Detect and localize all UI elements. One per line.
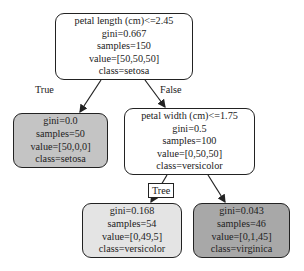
root-split-condition: petal length (cm)<=2.45 — [75, 15, 174, 28]
right-split-samples: samples=100 — [163, 135, 217, 148]
edge-root-to-left — [80, 80, 101, 112]
edge-label-true: True — [35, 84, 54, 95]
right-split-class: class=versicolor — [156, 160, 222, 173]
virginica-leaf-value: value=[0,1,45] — [211, 231, 271, 244]
versicolor-leaf-samples: samples=54 — [108, 218, 157, 231]
virginica-leaf-gini: gini=0.043 — [219, 205, 264, 218]
right-split-node: petal width (cm)<=1.75 gini=0.5 samples=… — [124, 108, 255, 175]
edge-label-tree: Tree — [148, 183, 174, 198]
edge-label-false: False — [160, 84, 182, 95]
root-samples: samples=150 — [97, 40, 151, 53]
right-split-condition: petal width (cm)<=1.75 — [141, 110, 238, 123]
versicolor-leaf-gini: gini=0.168 — [110, 205, 155, 218]
virginica-leaf-node: gini=0.043 samples=46 value=[0,1,45] cla… — [193, 203, 290, 258]
left-leaf-class: class=setosa — [35, 153, 85, 166]
versicolor-leaf-class: class=versicolor — [99, 243, 165, 256]
root-value: value=[50,50,50] — [89, 53, 159, 66]
right-split-value: value=[0,50,50] — [157, 148, 222, 161]
left-leaf-samples: samples=50 — [36, 128, 85, 141]
root-class: class=setosa — [99, 65, 149, 78]
right-split-gini: gini=0.5 — [172, 123, 206, 136]
virginica-leaf-class: class=virginica — [211, 243, 273, 256]
left-leaf-node: gini=0.0 samples=50 value=[50,0,0] class… — [13, 113, 108, 168]
left-leaf-gini: gini=0.0 — [43, 115, 77, 128]
root-gini: gini=0.667 — [102, 28, 147, 41]
left-leaf-value: value=[50,0,0] — [30, 141, 90, 154]
edge-right-to-virginica — [208, 175, 225, 202]
versicolor-leaf-value: value=[0,49,5] — [102, 231, 162, 244]
root-node: petal length (cm)<=2.45 gini=0.667 sampl… — [55, 13, 193, 80]
versicolor-leaf-node: gini=0.168 samples=54 value=[0,49,5] cla… — [82, 203, 182, 258]
virginica-leaf-samples: samples=46 — [217, 218, 266, 231]
